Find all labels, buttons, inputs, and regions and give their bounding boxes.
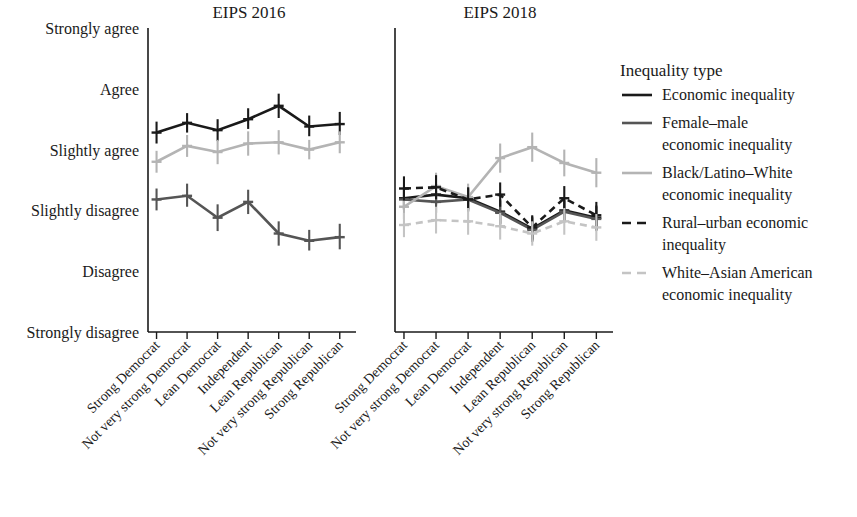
legend-entry-label: Rural–urban economic	[662, 214, 808, 231]
legend-entry-label: Economic inequality	[662, 86, 795, 104]
panel-title-eips2018: EIPS 2018	[463, 3, 536, 22]
legend-entry-label: Female–male	[662, 114, 748, 131]
legend-items: Economic inequalityFemale–maleeconomic i…	[622, 86, 813, 304]
legend-entry-label: economic inequality	[662, 286, 792, 304]
legend-entry-label: inequality	[662, 236, 726, 254]
plot-area-eips2018	[399, 133, 601, 339]
y-axis-tick-label: Slightly agree	[50, 142, 139, 160]
legend-entry[interactable]: Economic inequality	[662, 86, 795, 104]
y-axis-tick-label: Strongly disagree	[27, 324, 139, 342]
y-axis-tick-labels: Strongly agreeAgreeSlightly agreeSlightl…	[27, 20, 139, 342]
legend-entry-label: White–Asian American	[662, 264, 813, 281]
series-black-latino-white-economic-inequality	[152, 130, 345, 173]
y-axis-tick-label: Slightly disagree	[31, 202, 139, 220]
legend-entry-label: Black/Latino–White	[662, 164, 793, 181]
legend-entry-label: economic inequality	[662, 136, 792, 154]
legend-entry-label: economic inequality	[662, 186, 792, 204]
legend-entry[interactable]: Black/Latino–Whiteeconomic inequality	[662, 164, 793, 204]
series-female-male-economic-inequality	[152, 184, 345, 251]
legend-entry[interactable]: Female–maleeconomic inequality	[662, 114, 792, 154]
panel-title-eips2016: EIPS 2016	[212, 3, 285, 22]
x-axis-tick-labels-eips2018: Strong DemocratNot very strong DemocratL…	[328, 337, 603, 457]
legend-entry[interactable]: White–Asian Americaneconomic inequality	[662, 264, 813, 304]
y-axis-tick-label: Disagree	[82, 263, 139, 281]
plot-area-eips2016	[152, 94, 345, 339]
axes	[148, 28, 613, 332]
eips-inequality-line-chart: EIPS 2016 EIPS 2018 Strongly agreeAgreeS…	[0, 0, 857, 517]
legend: Inequality type Economic inequalityFemal…	[620, 61, 813, 304]
y-axis-tick-label: Agree	[100, 81, 139, 99]
panel-titles: EIPS 2016 EIPS 2018	[212, 3, 536, 22]
legend-entry[interactable]: Rural–urban economicinequality	[662, 214, 808, 254]
y-axis-tick-label: Strongly agree	[45, 20, 139, 38]
x-axis-tick-labels-eips2016: Strong DemocratNot very strong DemocratL…	[79, 337, 346, 457]
legend-title: Inequality type	[620, 61, 722, 80]
figure-container: EIPS 2016 EIPS 2018 Strongly agreeAgreeS…	[0, 0, 857, 517]
